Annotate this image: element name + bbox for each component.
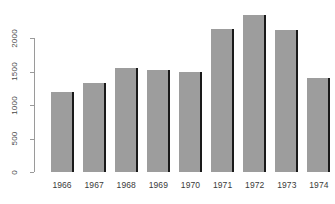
x-axis-label: 1968: [111, 180, 141, 190]
y-axis-tick: [30, 105, 34, 106]
y-axis-tick-label: 1500: [0, 67, 28, 77]
y-axis-tick: [30, 72, 34, 73]
y-axis-tick-label: 1000: [0, 100, 28, 110]
x-axis-label: 1974: [304, 180, 334, 190]
bar[interactable]: [179, 72, 202, 172]
y-axis-tick-label: 2000: [0, 33, 28, 43]
y-axis-tick-label-text: 1000: [10, 91, 19, 119]
y-axis-tick: [30, 172, 34, 173]
x-axis-label: 1970: [176, 180, 206, 190]
bar[interactable]: [147, 70, 170, 172]
y-axis-tick-label: 500: [0, 134, 28, 144]
x-axis-label: 1972: [240, 180, 270, 190]
x-axis-labels: 196619671968196919701971197219731974: [46, 180, 335, 194]
bar[interactable]: [307, 78, 330, 172]
y-axis-tick-label-text: 0: [10, 158, 19, 186]
y-axis-line: [34, 38, 35, 172]
y-axis-tick: [30, 38, 34, 39]
x-axis-label: 1973: [272, 180, 302, 190]
x-axis-label: 1966: [47, 180, 77, 190]
bar[interactable]: [115, 68, 138, 172]
y-axis-tick-label-text: 500: [10, 125, 19, 153]
bar[interactable]: [211, 29, 234, 172]
bar[interactable]: [243, 15, 266, 172]
bar-chart: 0500100015002000 19661967196819691970197…: [0, 0, 335, 204]
x-axis-label: 1967: [79, 180, 109, 190]
bar[interactable]: [275, 30, 298, 172]
bar[interactable]: [83, 83, 106, 172]
bar[interactable]: [51, 92, 74, 172]
x-axis-label: 1969: [143, 180, 173, 190]
y-axis-tick: [30, 139, 34, 140]
y-axis-tick-label-text: 2000: [10, 24, 19, 52]
y-axis-tick-label-text: 1500: [10, 58, 19, 86]
x-axis-label: 1971: [208, 180, 238, 190]
y-axis-tick-label: 0: [0, 167, 28, 177]
plot-area: [46, 0, 335, 172]
